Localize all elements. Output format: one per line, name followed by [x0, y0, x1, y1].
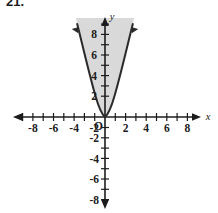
y-axis-label: y: [109, 11, 115, 22]
x-tick-label: -4: [69, 122, 79, 134]
x-tick-label: 2: [123, 122, 129, 134]
y-tick-label: 6: [91, 49, 97, 61]
y-tick-label: 8: [91, 28, 97, 40]
origin-label: O: [94, 120, 103, 132]
y-tick-label: -8: [89, 194, 99, 206]
x-tick-label: -8: [28, 122, 38, 134]
x-axis-tick-labels: -8 -6 -4 -2 2 4 6 8: [28, 122, 190, 134]
x-tick-label: 4: [143, 122, 149, 134]
x-tick-label: 6: [164, 122, 170, 134]
figure-container: 21.: [0, 0, 218, 213]
x-axis-arrow-right: [192, 113, 201, 121]
y-axis-arrow-bottom: [101, 200, 109, 209]
x-axis-arrow-left: [13, 113, 22, 121]
y-tick-label: 4: [91, 70, 97, 82]
y-tick-label: -6: [89, 173, 99, 185]
coordinate-plane-graph: -8 -6 -4 -2 2 4 6 8 8 6 4 2 -2 -4 -6 -8 …: [0, 0, 218, 213]
x-axis-label: x: [205, 111, 211, 122]
y-tick-label: -4: [89, 153, 99, 165]
y-tick-label: 2: [91, 90, 97, 102]
x-tick-label: -6: [49, 122, 59, 134]
x-tick-label: 8: [185, 122, 191, 134]
y-tick-label: -2: [89, 132, 99, 144]
